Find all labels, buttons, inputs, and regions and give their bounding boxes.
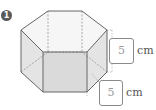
height-value-box: 5: [109, 38, 134, 64]
front-face: [43, 52, 87, 92]
height-unit-label: cm: [137, 44, 154, 57]
base-edge-unit-label: cm: [126, 86, 143, 99]
base-edge-value-box: 5: [99, 80, 123, 106]
